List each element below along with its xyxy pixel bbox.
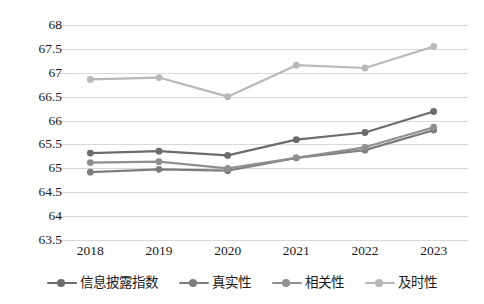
- legend-item[interactable]: 及时性: [365, 276, 437, 290]
- data-point: [362, 144, 369, 151]
- legend-label: 真实性: [212, 276, 251, 290]
- gridline: [56, 240, 468, 241]
- x-axis-tick-label: 2018: [60, 244, 120, 258]
- x-axis-tick-label: 2023: [404, 244, 464, 258]
- data-point: [293, 154, 300, 161]
- data-point: [156, 158, 163, 165]
- legend-dot-icon: [282, 279, 290, 287]
- data-point: [87, 159, 94, 166]
- series-信息披露指数: [87, 108, 437, 159]
- data-point: [87, 169, 94, 176]
- legend-item[interactable]: 真实性: [179, 276, 251, 290]
- plot-area: [56, 25, 468, 240]
- data-point: [156, 148, 163, 155]
- x-axis: 201820192020202120222023: [56, 244, 468, 266]
- chart-legend: 信息披露指数真实性相关性及时性: [0, 272, 484, 294]
- series-及时性: [87, 43, 437, 100]
- data-point: [224, 165, 231, 172]
- data-point: [430, 43, 437, 50]
- data-point: [87, 150, 94, 157]
- data-point: [430, 124, 437, 131]
- data-point: [156, 74, 163, 81]
- series-line: [90, 111, 433, 155]
- legend-dot-icon: [375, 279, 383, 287]
- data-point: [362, 65, 369, 72]
- data-point: [156, 166, 163, 173]
- legend-label: 及时性: [398, 276, 437, 290]
- x-axis-tick-label: 2020: [198, 244, 258, 258]
- data-point: [87, 76, 94, 83]
- legend-dot-icon: [189, 279, 197, 287]
- legend-item[interactable]: 信息披露指数: [47, 276, 158, 290]
- legend-marker-icon: [272, 278, 302, 289]
- legend-dot-icon: [57, 279, 65, 287]
- data-point: [430, 108, 437, 115]
- legend-item[interactable]: 相关性: [272, 276, 344, 290]
- line-chart: 6867.56766.56665.56564.56463.5 201820192…: [0, 0, 484, 304]
- data-point: [362, 129, 369, 136]
- legend-marker-icon: [47, 278, 77, 289]
- legend-label: 信息披露指数: [80, 276, 158, 290]
- series-layer: [56, 25, 468, 240]
- data-point: [293, 136, 300, 143]
- legend-marker-icon: [179, 278, 209, 289]
- x-axis-tick-label: 2019: [129, 244, 189, 258]
- legend-marker-icon: [365, 278, 395, 289]
- series-line: [90, 47, 433, 97]
- x-axis-tick-label: 2022: [335, 244, 395, 258]
- x-axis-tick-label: 2021: [266, 244, 326, 258]
- data-point: [293, 62, 300, 69]
- data-point: [224, 93, 231, 100]
- data-point: [224, 152, 231, 159]
- legend-label: 相关性: [305, 276, 344, 290]
